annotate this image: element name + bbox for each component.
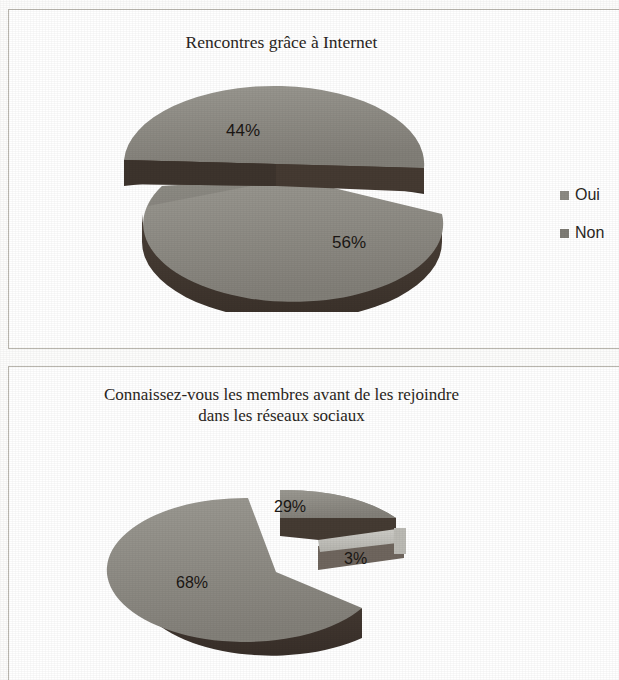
chart-2-pie: 29% 68% 3%: [104, 462, 504, 677]
chart-2-label-autre: 3%: [344, 550, 367, 567]
chart-panel-rencontres: Rencontres grâce à Internet: [8, 9, 619, 349]
chart-1-label-oui: 44%: [226, 121, 260, 140]
chart-1-pie: 44% 56%: [104, 82, 504, 312]
legend-label-non: Non: [575, 224, 604, 242]
legend-swatch-icon-non: [560, 229, 569, 238]
chart-1-slice-oui: [124, 86, 424, 194]
legend-swatch-icon-oui: [560, 191, 569, 200]
chart-1-title-line-1: Rencontres grâce à Internet: [9, 32, 554, 53]
legend-label-oui: Oui: [575, 186, 600, 204]
chart-1-label-non: 56%: [332, 233, 366, 252]
chart-2-title-line-2: dans les réseaux sociaux: [9, 406, 554, 427]
legend-item-oui[interactable]: Oui: [560, 182, 604, 208]
scanned-page: Rencontres grâce à Internet: [0, 0, 619, 680]
chart-1-legend: Oui Non: [560, 182, 604, 258]
legend-item-non[interactable]: Non: [560, 220, 604, 246]
chart-2-label-non: 68%: [176, 574, 208, 591]
chart-1-title: Rencontres grâce à Internet: [9, 32, 554, 53]
chart-2-title: Connaissez-vous les membres avant de les…: [9, 385, 554, 426]
chart-panel-connaissez-vous: Connaissez-vous les membres avant de les…: [8, 366, 619, 680]
chart-2-title-line-1: Connaissez-vous les membres avant de les…: [9, 385, 554, 406]
chart-2-pie-svg: 29% 68% 3%: [104, 462, 504, 677]
chart-2-label-oui: 29%: [274, 498, 306, 515]
chart-1-pie-svg: 44% 56%: [104, 82, 504, 312]
chart-1-slice-non: [142, 178, 443, 312]
